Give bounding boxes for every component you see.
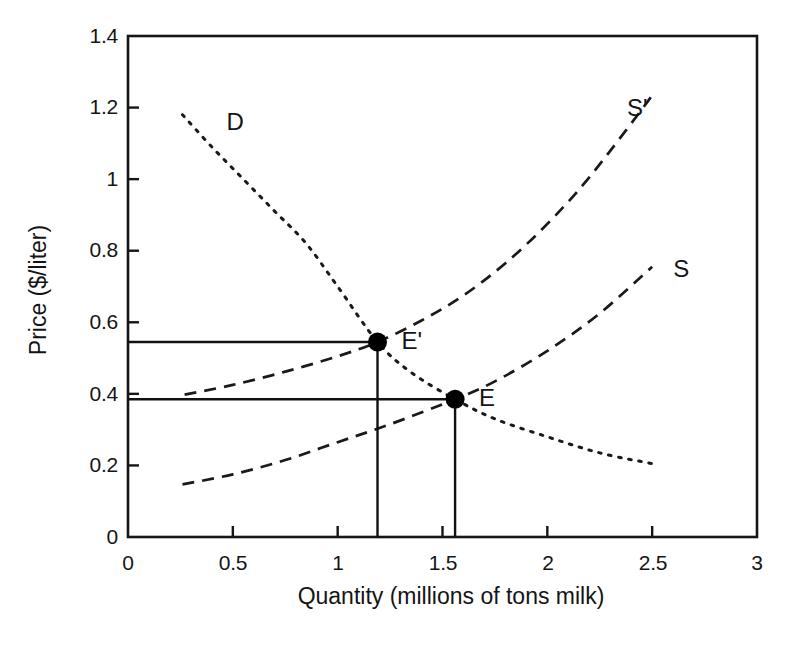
ytick-label: 1.4 — [60, 24, 118, 48]
xtick-label: 0.5 — [219, 551, 248, 575]
ytick-label: 0.4 — [60, 382, 118, 406]
ytick-label: 1.2 — [60, 95, 118, 119]
xtick-label: 3 — [751, 551, 762, 575]
curve-demand — [183, 115, 653, 464]
curve-label-supply: S — [673, 255, 689, 283]
ytick-label: 1 — [60, 167, 118, 191]
xtick-label: 1.5 — [429, 551, 458, 575]
chart-plot-area — [0, 0, 811, 646]
xtick-label: 1 — [332, 551, 343, 575]
ytick-label: 0.8 — [60, 238, 118, 262]
xtick-label: 2 — [542, 551, 553, 575]
equilibrium-marker-e — [446, 390, 465, 409]
curve-supply — [183, 267, 653, 485]
x-axis-title: Quantity (millions of tons milk) — [298, 583, 605, 610]
curve-label-supply-shifted: S' — [627, 94, 648, 122]
curve-label-demand: D — [227, 108, 244, 136]
xtick-label: 0 — [122, 551, 133, 575]
ytick-label: 0 — [60, 525, 118, 549]
equilibrium-label-e: E — [479, 384, 495, 412]
ytick-label: 0.6 — [60, 310, 118, 334]
supply-demand-chart-figure: 1.4 1.2 1 0.8 0.6 0.4 0.2 0 0 0.5 1 1.5 … — [0, 0, 811, 646]
y-axis-title: Price ($/liter) — [25, 225, 52, 355]
xtick-label: 2.5 — [639, 551, 668, 575]
plot-border — [128, 36, 757, 537]
equilibrium-marker-e-prime — [368, 332, 387, 351]
ytick-label: 0.2 — [60, 453, 118, 477]
equilibrium-label-e-prime: E' — [402, 327, 423, 355]
